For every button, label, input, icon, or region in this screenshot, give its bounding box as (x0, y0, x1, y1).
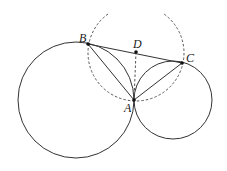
point-B (86, 42, 90, 46)
geometry-diagram: A B C D (0, 0, 227, 171)
label-B: B (79, 31, 87, 45)
large-circle (18, 42, 134, 158)
label-C: C (186, 51, 195, 65)
small-circle (134, 61, 212, 139)
point-A (132, 98, 136, 102)
label-D: D (132, 37, 142, 51)
label-A: A (123, 101, 132, 115)
segment-AC (134, 63, 182, 100)
point-C (180, 61, 184, 65)
